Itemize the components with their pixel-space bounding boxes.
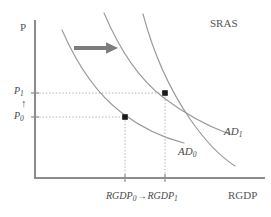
ad0-curve-label: AD0 [178, 146, 196, 157]
y-axis-title: P [20, 22, 26, 33]
ad0-curve-label-subscript: 0 [193, 150, 197, 159]
sras-curve [143, 14, 235, 166]
x-tick-label-rgdp0-subscript: 0 [133, 194, 137, 203]
y-tick-label-p1: P1 [14, 86, 24, 96]
ad1-curve-label-subscript: 1 [239, 130, 243, 139]
x-tick-label-rgdp0-base: RGDP [106, 190, 133, 201]
y-tick-label-p0: P0 [14, 111, 24, 121]
diagram-canvas [0, 0, 271, 217]
x-tick-label-rgdp1-subscript: 1 [174, 194, 178, 203]
x-axis-title: RGDP [228, 190, 257, 201]
initial-equilibrium-point [122, 114, 128, 120]
shift-arrow-head [106, 42, 118, 54]
x-tick-group-label: RGDP0→RGDP1 [106, 191, 178, 201]
sras-curve-label: SRAS [210, 18, 238, 29]
y-tick-label-p0-subscript: 0 [20, 114, 24, 123]
new-equilibrium-point [162, 90, 168, 96]
equilibrium-points-group [122, 90, 168, 120]
rgdp-increase-arrow-icon: → [136, 190, 147, 201]
ad0-curve-label-base: AD [178, 145, 193, 157]
tick-marks-group [31, 93, 165, 182]
price-increase-arrow-icon: ↑ [21, 98, 27, 109]
ad1-curve-label-base: AD [224, 125, 239, 137]
ad-rightward-shift-arrow [74, 42, 118, 54]
ad1-curve-label: AD1 [224, 126, 242, 137]
guide-lines-group [36, 93, 165, 177]
x-tick-label-rgdp1-base: RGDP [147, 190, 174, 201]
ad-sras-diagram: P RGDP P1 ↑ P0 SRAS AD1 AD0 RGDP0→RGDP1 [0, 0, 271, 217]
